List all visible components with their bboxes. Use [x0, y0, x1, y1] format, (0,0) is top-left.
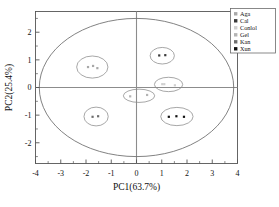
legend-swatch-kan — [234, 40, 237, 43]
x-tick-label: 0 — [135, 169, 139, 178]
legend-label-xun: Xun — [240, 45, 251, 52]
data-point — [158, 54, 160, 56]
legend-label-conlol: Conlol — [240, 24, 257, 31]
data-point — [92, 65, 94, 67]
legend-label-cal: Cal — [240, 17, 249, 24]
data-point — [183, 116, 185, 118]
y-axis-title: PC2(25.4%) — [4, 64, 15, 111]
x-tick-label: 3 — [210, 169, 214, 178]
y-tick-label: -2 — [25, 139, 32, 148]
y-tick-label: -1 — [25, 111, 32, 120]
x-tick-label: -1 — [108, 169, 115, 178]
x-tick-label: -3 — [57, 169, 64, 178]
x-tick-label: 4 — [236, 169, 240, 178]
data-point — [174, 84, 176, 86]
y-tick-label: 1 — [28, 56, 32, 65]
y-tick-label: 2 — [28, 28, 32, 37]
data-point — [146, 94, 148, 96]
legend-label-gel: Gel — [240, 31, 249, 38]
data-point — [168, 116, 170, 118]
x-tick-label: -2 — [83, 169, 90, 178]
x-tick-label: 1 — [160, 169, 164, 178]
legend-swatch-cal — [234, 19, 237, 22]
data-point — [87, 66, 89, 68]
y-tick-label: 0 — [28, 83, 32, 92]
data-point — [97, 115, 99, 117]
legend: AgaCalConlolGelKanXun — [231, 9, 276, 54]
data-point — [175, 115, 177, 117]
legend-swatch-conlol — [234, 26, 237, 29]
data-point — [91, 116, 93, 118]
data-point — [129, 95, 131, 97]
x-tick-label: -4 — [32, 169, 39, 178]
data-point — [96, 67, 98, 69]
legend-swatch-xun — [234, 47, 237, 50]
data-point — [164, 54, 166, 56]
chart-canvas: -4-3-2-101234 -2-1012 PC1(63.7%) PC2(25.… — [0, 0, 279, 207]
legend-label-aga: Aga — [240, 10, 251, 17]
legend-swatch-aga — [234, 12, 237, 15]
pca-score-plot-figure: -4-3-2-101234 -2-1012 PC1(63.7%) PC2(25.… — [0, 0, 279, 207]
data-point — [163, 83, 165, 85]
legend-swatch-gel — [234, 33, 237, 36]
legend-label-kan: Kan — [240, 38, 250, 45]
x-tick-label: 2 — [185, 169, 189, 178]
x-axis-title: PC1(63.7%) — [113, 182, 160, 193]
data-point — [161, 83, 163, 85]
